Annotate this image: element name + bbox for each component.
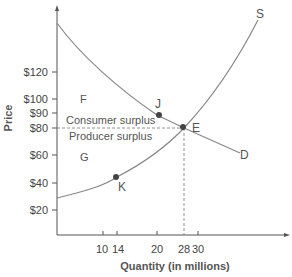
consumer-surplus-label: Consumer surplus [66, 114, 156, 126]
point-e-label: E [192, 121, 200, 135]
region-g-label: G [80, 151, 89, 163]
x-tick-label: 14 [112, 243, 124, 255]
producer-surplus-label: Producer surplus [69, 130, 153, 142]
y-tick-label: $40 [30, 177, 48, 189]
point-j [156, 112, 162, 118]
x-tick-label: 30 [192, 243, 204, 255]
point-k-label: K [118, 180, 126, 194]
point-j-label: J [155, 97, 161, 111]
point-e [180, 124, 186, 130]
y-axis-arrow-icon [55, 5, 59, 11]
y-tick-label: $90 [30, 107, 48, 119]
x-tick-label: 10 [96, 243, 108, 255]
x-tick-label: 28 [178, 243, 190, 255]
x-axis-arrow-icon [284, 233, 290, 237]
y-tick-label: $120 [24, 66, 48, 78]
demand-label: D [240, 148, 249, 162]
region-f-label: F [80, 93, 87, 105]
y-tick-label: $20 [30, 204, 48, 216]
supply-label: S [256, 7, 264, 21]
x-axis-title: Quantity (in millions) [120, 260, 230, 272]
y-tick-label: $80 [30, 122, 48, 134]
x-tick-label: 20 [151, 243, 163, 255]
y-axis-title: Price [2, 105, 14, 132]
supply-demand-chart: $120 $100 $90 $80 $60 $40 $20 10 14 20 2… [0, 0, 292, 277]
y-tick-label: $60 [30, 149, 48, 161]
y-ticks: $120 $100 $90 $80 $60 $40 $20 [24, 66, 57, 216]
y-tick-label: $100 [24, 93, 48, 105]
